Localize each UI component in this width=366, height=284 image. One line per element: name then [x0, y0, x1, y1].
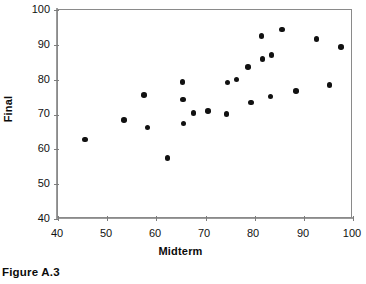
x-tick-label: 90 — [287, 228, 319, 239]
scatter-point — [181, 121, 187, 127]
scatter-point — [259, 33, 265, 39]
scatter-point — [145, 125, 151, 131]
x-tick-label: 70 — [188, 228, 220, 239]
y-tick-label: 90 — [22, 39, 50, 50]
x-tick-label: 60 — [139, 228, 171, 239]
y-tick-label: 40 — [22, 213, 50, 224]
scatter-point — [165, 155, 171, 161]
scatter-point — [260, 56, 266, 62]
figure-caption: Figure A.3 — [2, 266, 60, 278]
scatter-point — [314, 36, 320, 42]
x-tick-label: 50 — [90, 228, 122, 239]
scatter-point — [248, 100, 254, 106]
scatter-point — [269, 52, 275, 58]
scatter-point — [121, 117, 127, 123]
scatter-point — [191, 110, 197, 116]
scatter-point — [141, 92, 147, 98]
scatter-point — [180, 79, 186, 85]
y-tick-label: 60 — [22, 143, 50, 154]
x-tick-label: 40 — [41, 228, 73, 239]
x-tick-label: 80 — [237, 228, 269, 239]
scatter-point — [338, 44, 344, 50]
scatter-point — [205, 108, 211, 114]
y-tick-label: 100 — [22, 4, 50, 15]
scatter-point — [224, 111, 230, 117]
x-axis-title: Midterm — [0, 245, 361, 257]
scatter-point — [180, 97, 186, 103]
y-tick-label: 70 — [22, 108, 50, 119]
scatter-point — [245, 64, 251, 70]
scatter-point — [279, 27, 285, 33]
scatter-point — [293, 88, 299, 94]
scatter-point — [327, 82, 333, 88]
scatter-point — [234, 77, 240, 83]
plot-area — [57, 9, 352, 218]
x-tick-label: 100 — [336, 228, 366, 239]
scatter-points — [58, 10, 351, 217]
scatter-point — [82, 137, 88, 143]
y-axis-title: Final — [2, 79, 14, 139]
scatter-point — [268, 94, 274, 100]
y-tick-label: 50 — [22, 178, 50, 189]
scatter-point — [225, 80, 231, 86]
x-axis-tick — [353, 216, 354, 221]
y-tick-label: 80 — [22, 74, 50, 85]
